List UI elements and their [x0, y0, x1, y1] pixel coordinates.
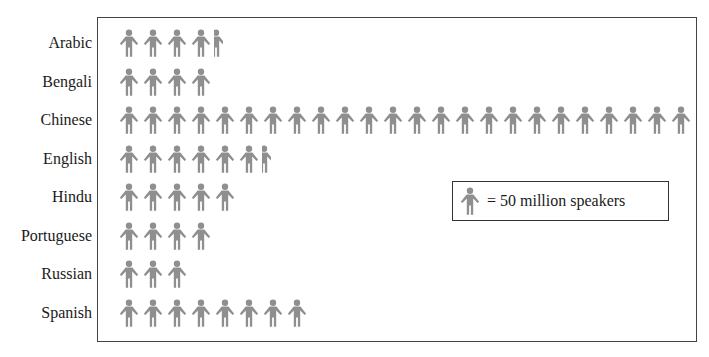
person-icon	[118, 298, 142, 328]
row-label: Portuguese	[0, 217, 92, 255]
person-icon	[190, 182, 214, 212]
person-icon	[286, 105, 310, 135]
row-label: Spanish	[0, 294, 92, 332]
row-label: Hindu	[0, 178, 92, 216]
person-icon	[190, 28, 214, 58]
person-icon	[142, 67, 166, 97]
person-icon	[142, 259, 166, 289]
person-icon-partial	[262, 144, 271, 174]
row-label: English	[0, 140, 92, 178]
person-icon	[622, 105, 646, 135]
person-icon	[166, 221, 190, 251]
person-icon	[238, 105, 262, 135]
person-icon	[118, 221, 142, 251]
person-icon	[310, 105, 334, 135]
person-icon	[358, 105, 382, 135]
person-icon	[526, 105, 550, 135]
person-icon	[574, 105, 598, 135]
person-icon	[118, 28, 142, 58]
icon-group	[118, 217, 214, 255]
person-icon	[190, 221, 214, 251]
person-icon	[406, 105, 430, 135]
person-icon	[214, 182, 238, 212]
person-icon	[118, 105, 142, 135]
person-icon	[190, 144, 214, 174]
icon-group	[118, 24, 223, 62]
icon-group	[118, 63, 214, 101]
icon-group	[118, 255, 190, 293]
person-icon	[598, 105, 622, 135]
person-icon	[166, 67, 190, 97]
person-icon	[118, 259, 142, 289]
icon-group	[118, 294, 310, 332]
person-icon	[166, 259, 190, 289]
row-label: Arabic	[0, 24, 92, 62]
icon-group	[118, 101, 694, 139]
person-icon	[262, 105, 286, 135]
person-icon	[646, 105, 670, 135]
row-label: Russian	[0, 255, 92, 293]
person-icon-partial	[214, 28, 223, 58]
person-icon	[118, 182, 142, 212]
person-icon	[502, 105, 526, 135]
person-icon	[670, 105, 694, 135]
person-icon	[190, 67, 214, 97]
person-icon	[286, 298, 310, 328]
person-icon	[166, 144, 190, 174]
person-icon	[550, 105, 574, 135]
person-icon	[459, 186, 483, 216]
person-icon	[334, 105, 358, 135]
person-icon	[166, 298, 190, 328]
person-icon	[190, 298, 214, 328]
person-icon	[142, 221, 166, 251]
person-icon	[166, 182, 190, 212]
person-icon	[166, 28, 190, 58]
person-icon	[214, 144, 238, 174]
person-icon	[118, 144, 142, 174]
person-icon	[190, 105, 214, 135]
person-icon	[262, 298, 286, 328]
legend-box: = 50 million speakers	[452, 181, 669, 221]
person-icon	[238, 298, 262, 328]
person-icon	[430, 105, 454, 135]
person-icon	[214, 105, 238, 135]
person-icon	[166, 105, 190, 135]
person-icon	[118, 67, 142, 97]
person-icon	[454, 105, 478, 135]
legend-text: = 50 million speakers	[487, 192, 625, 210]
icon-group	[118, 178, 238, 216]
person-icon	[142, 144, 166, 174]
person-icon	[238, 144, 262, 174]
person-icon	[142, 182, 166, 212]
person-icon	[142, 298, 166, 328]
person-icon	[142, 28, 166, 58]
person-icon	[382, 105, 406, 135]
person-icon	[214, 298, 238, 328]
icon-group	[118, 140, 271, 178]
row-label: Bengali	[0, 63, 92, 101]
person-icon	[142, 105, 166, 135]
person-icon	[478, 105, 502, 135]
row-label: Chinese	[0, 101, 92, 139]
